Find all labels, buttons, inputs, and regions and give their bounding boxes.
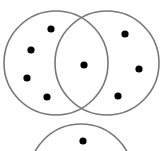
dot-left-right-intersection (80, 61, 87, 68)
dot-right-only (135, 65, 142, 72)
dot-right-only (121, 30, 128, 37)
venn-diagram (0, 0, 164, 151)
dot-left-only (43, 93, 50, 100)
circle-left (4, 11, 108, 115)
dot-left-only (47, 25, 54, 32)
dot-left-only (27, 46, 34, 53)
circle-bottom (29, 124, 133, 151)
dot-bottom-only (79, 137, 86, 144)
circle-right (55, 11, 159, 115)
dot-left-only (23, 74, 30, 81)
dot-right-only (114, 92, 121, 99)
